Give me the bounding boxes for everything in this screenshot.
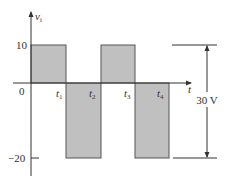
tick-label-0: 0 <box>19 85 25 97</box>
tick-label-10: 10 <box>16 39 28 51</box>
waveform <box>31 45 169 158</box>
pulse-negative-2 <box>135 83 169 158</box>
dimension-annotation: 30 V <box>172 45 218 158</box>
time-label-t1: t1 <box>56 87 63 101</box>
pulse-positive-2 <box>101 45 135 83</box>
x-axis-label: t <box>188 83 192 95</box>
square-wave-diagram: vi t 10 0 −20 t1 t2 t3 t4 30 V <box>0 0 231 186</box>
pulse-positive-1 <box>31 45 66 83</box>
y-axis-label: vi <box>35 10 42 24</box>
dimension-label: 30 V <box>196 94 218 106</box>
pulse-negative-1 <box>66 83 101 158</box>
time-label-t3: t3 <box>124 87 131 101</box>
tick-label-minus-20: −20 <box>8 152 26 164</box>
